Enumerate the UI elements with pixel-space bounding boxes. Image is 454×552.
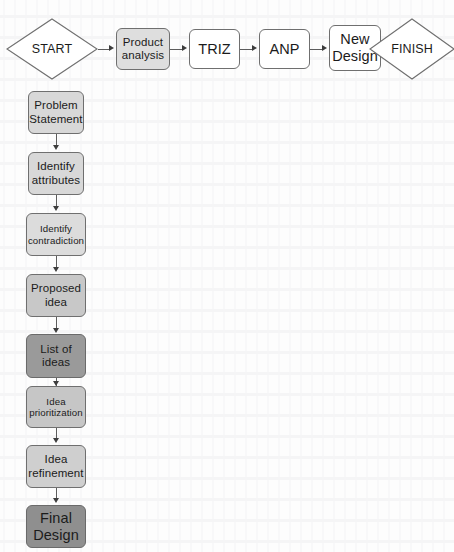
node-identify-attributes-line2: attributes: [32, 174, 80, 187]
node-idea-prioritization[interactable]: Idea prioritization: [26, 386, 86, 428]
flowchart-canvas: START Product analysis TRIZ ANP New Desi…: [0, 0, 454, 552]
node-problem-statement-line2: Statement: [29, 113, 82, 126]
node-list-of-ideas[interactable]: List of ideas: [26, 334, 86, 378]
arrowhead-attributes-to-contradiction: [53, 206, 59, 211]
node-anp[interactable]: ANP: [259, 29, 310, 69]
node-idea-refinement-line2: refinement: [28, 467, 83, 480]
node-triz-label: TRIZ: [198, 41, 231, 58]
node-start-label: START: [32, 42, 72, 57]
node-triz[interactable]: TRIZ: [189, 29, 240, 69]
node-list-of-ideas-line2: ideas: [40, 356, 71, 369]
node-problem-statement-line1: Problem: [29, 99, 82, 112]
arrowhead-triz-to-anp: [252, 45, 257, 51]
node-final-design-line2: Design: [33, 527, 79, 544]
arrowhead-start-to-product: [109, 45, 114, 51]
node-identify-attributes-line1: Identify: [32, 160, 80, 173]
node-product-analysis[interactable]: Product analysis: [116, 28, 170, 70]
node-product-analysis-line2: analysis: [122, 49, 164, 62]
arrowhead-anp-to-new-design: [322, 45, 327, 51]
arrowhead-contradiction-to-proposed-idea: [53, 267, 59, 272]
node-proposed-idea-line1: Proposed: [31, 282, 81, 295]
node-finish[interactable]: FINISH: [369, 18, 454, 80]
node-identify-contradiction-line1: Identify: [28, 223, 84, 234]
arrowhead-prioritization-to-refinement: [53, 438, 59, 443]
node-identify-attributes[interactable]: Identify attributes: [28, 152, 84, 195]
node-problem-statement[interactable]: Problem Statement: [28, 91, 84, 134]
node-anp-label: ANP: [269, 41, 299, 58]
node-idea-refinement[interactable]: Idea refinement: [26, 445, 86, 488]
arrowhead-proposed-idea-to-list-of-ideas: [53, 328, 59, 333]
node-start[interactable]: START: [6, 18, 98, 80]
node-list-of-ideas-line1: List of: [40, 343, 71, 356]
node-final-design[interactable]: Final Design: [26, 505, 86, 548]
node-final-design-line1: Final: [33, 510, 79, 527]
arrowhead-refinement-to-final-design: [53, 498, 59, 503]
arrowhead-product-to-triz: [182, 45, 187, 51]
node-proposed-idea-line2: idea: [31, 296, 81, 309]
node-idea-refinement-line1: Idea: [28, 453, 83, 466]
node-proposed-idea[interactable]: Proposed idea: [26, 274, 86, 317]
node-idea-prioritization-line2: prioritization: [29, 407, 83, 418]
node-idea-prioritization-line1: Idea: [29, 396, 83, 407]
node-identify-contradiction-line2: contradiction: [28, 235, 84, 246]
node-product-analysis-line1: Product: [122, 36, 164, 49]
node-finish-label: FINISH: [391, 42, 433, 57]
node-identify-contradiction[interactable]: Identify contradiction: [26, 213, 86, 256]
arrowhead-problem-to-identify-attributes: [53, 145, 59, 150]
